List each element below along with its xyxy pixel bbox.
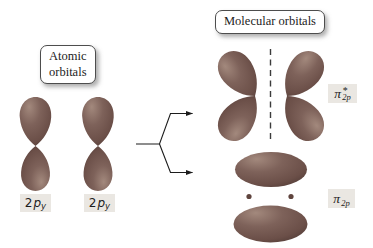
pi-star-symbol: π	[334, 86, 341, 102]
atomic-p-orbital-1	[20, 97, 52, 191]
nucleus-dot-left	[246, 194, 251, 199]
molecular-orbitals-label: Molecular orbitals	[224, 14, 316, 28]
atomic-orbitals-label-line1: Atomic	[49, 49, 87, 65]
branch-arrow	[136, 114, 193, 173]
ao2-coefficient: 2	[89, 196, 97, 210]
atomic-p-orbital-2	[82, 97, 114, 191]
pi-star-2p-label: π*2p	[328, 84, 357, 103]
atomic-orbitals-label-box: Atomic orbitals	[40, 45, 96, 84]
ao2-letter: p	[96, 196, 105, 210]
ao1-coefficient: 2	[25, 196, 33, 210]
ao1-subscript: y	[41, 201, 46, 211]
ao2-subscript: y	[105, 201, 110, 211]
molecular-orbitals-label-box: Molecular orbitals	[215, 10, 325, 34]
pi-2p-label: π2p	[328, 189, 355, 208]
nucleus-dot-right	[288, 194, 293, 199]
pi-subscript: 2p	[341, 198, 350, 208]
pi-star-subscript: 2p	[342, 94, 351, 101]
pi-bonding-orbital	[234, 152, 308, 243]
mo-diagram: Atomic orbitals Molecular orbitals 2py 2…	[0, 0, 373, 248]
atomic-orbitals-label-line2: orbitals	[49, 65, 87, 81]
ao1-2py-label: 2py	[20, 194, 51, 212]
ao2-2py-label: 2py	[84, 194, 115, 212]
ao1-letter: p	[32, 196, 41, 210]
pi-symbol: π	[333, 191, 340, 207]
orbital-shapes-canvas	[0, 0, 373, 248]
